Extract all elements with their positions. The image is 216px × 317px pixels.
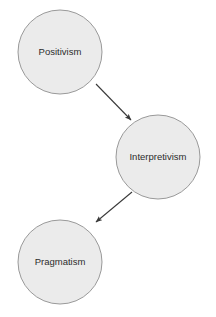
node-pragmatism[interactable]: Pragmatism: [18, 220, 102, 304]
edge-line: [96, 192, 132, 222]
node-positivism[interactable]: Positivism: [18, 10, 102, 94]
node-label: Positivism: [39, 46, 82, 57]
node-label: Interpretivism: [129, 151, 186, 162]
node-interpretivism[interactable]: Interpretivism: [116, 115, 200, 199]
diagram-canvas: Positivism Interpretivism Pragmatism: [0, 0, 216, 317]
edge-interpretivism-pragmatism: [96, 192, 132, 222]
edge-positivism-interpretivism: [96, 84, 131, 120]
diagram-svg: Positivism Interpretivism Pragmatism: [0, 0, 216, 317]
edge-line: [96, 84, 131, 120]
node-label: Pragmatism: [35, 256, 86, 267]
